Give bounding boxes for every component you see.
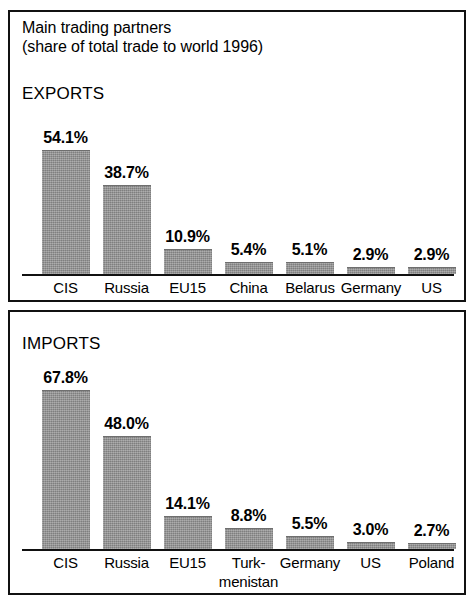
category-label: US (401, 278, 462, 297)
category-label-line: Russia (96, 278, 157, 297)
bar-slot (279, 312, 340, 549)
bar-value-label: 2.7% (401, 522, 462, 540)
category-label-line: EU15 (157, 278, 218, 297)
bar (347, 267, 395, 274)
exports-plot-area: 54.1%38.7%10.9%5.4%5.1%2.9%2.9% (10, 12, 464, 274)
imports-plot-area: 67.8%48.0%14.1%8.8%5.5%3.0%2.7% (10, 312, 464, 549)
bar-value-label: 48.0% (96, 415, 157, 433)
bar (103, 185, 151, 274)
bar (103, 436, 151, 549)
exports-category-row: CISRussiaEU15ChinaBelarusGermanyUS (10, 276, 464, 302)
category-label-line: CIS (35, 553, 96, 572)
category-label: EU15 (157, 278, 218, 297)
category-label: CIS (35, 553, 96, 572)
bar-value-label: 14.1% (157, 495, 218, 513)
category-label-line: Russia (96, 553, 157, 572)
category-label-line: US (340, 553, 401, 572)
bar-value-label: 5.5% (279, 515, 340, 533)
category-label: Poland (401, 553, 462, 572)
category-label-line: China (218, 278, 279, 297)
category-label-line: US (401, 278, 462, 297)
category-label: China (218, 278, 279, 297)
category-label-line: Poland (401, 553, 462, 572)
bar-slot (401, 12, 462, 274)
category-label-line: menistan (218, 572, 279, 591)
bar-value-label: 38.7% (96, 164, 157, 182)
bar-slot (279, 12, 340, 274)
bar (347, 542, 395, 549)
bar-slot (401, 312, 462, 549)
category-label: EU15 (157, 553, 218, 572)
bar (286, 262, 334, 274)
category-label: Germany (271, 553, 349, 572)
bar-value-label: 67.8% (35, 369, 96, 387)
bar (42, 390, 90, 549)
category-label: Germany (332, 278, 410, 297)
category-label: US (340, 553, 401, 572)
bar-slot (96, 12, 157, 274)
bar (225, 262, 273, 274)
bar-slot (157, 312, 218, 549)
bar (42, 150, 90, 274)
exports-panel: Main trading partners (share of total tr… (8, 10, 466, 302)
bar-value-label: 8.8% (218, 507, 279, 525)
bar-value-label: 2.9% (340, 246, 401, 264)
bar-value-label: 5.4% (218, 241, 279, 259)
imports-category-row: CISRussiaEU15Turk-menistanGermanyUSPolan… (10, 551, 464, 595)
bar-value-label: 2.9% (401, 246, 462, 264)
chart-figure: Main trading partners (share of total tr… (0, 0, 476, 605)
bar (164, 516, 212, 549)
bar-slot (340, 312, 401, 549)
category-label-line: Germany (271, 553, 349, 572)
imports-panel: IMPORTS 67.8%48.0%14.1%8.8%5.5%3.0%2.7% … (8, 310, 466, 595)
category-label-line: Turk- (218, 553, 279, 572)
category-label-line: EU15 (157, 553, 218, 572)
category-label: CIS (35, 278, 96, 297)
bar-value-label: 5.1% (279, 241, 340, 259)
category-label-line: CIS (35, 278, 96, 297)
bar (164, 249, 212, 274)
bar-slot (218, 12, 279, 274)
bar (225, 528, 273, 549)
category-label: Turk-menistan (218, 553, 279, 591)
bar-value-label: 10.9% (157, 228, 218, 246)
category-label: Russia (96, 553, 157, 572)
bar-slot (340, 12, 401, 274)
bar (408, 267, 456, 274)
category-label: Russia (96, 278, 157, 297)
category-label-line: Germany (332, 278, 410, 297)
bar-value-label: 54.1% (35, 129, 96, 147)
bar-slot (35, 312, 96, 549)
bar-value-label: 3.0% (340, 521, 401, 539)
bar (286, 536, 334, 549)
